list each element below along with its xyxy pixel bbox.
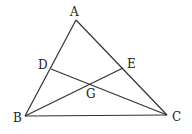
- segment-dc: [51, 69, 167, 115]
- label-d: D: [38, 58, 48, 72]
- label-c: C: [172, 110, 181, 124]
- label-e: E: [127, 57, 136, 71]
- label-b: B: [13, 111, 22, 125]
- label-a: A: [69, 5, 79, 19]
- segment-ab: [25, 20, 76, 116]
- triangle-diagram: A B C D E G: [0, 0, 192, 134]
- label-g: G: [86, 87, 96, 101]
- segment-bc: [25, 115, 167, 116]
